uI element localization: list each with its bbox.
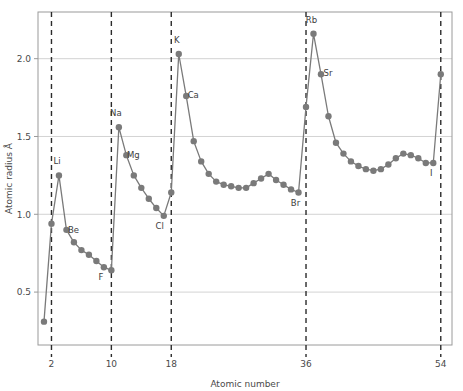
data-point [146,196,152,202]
data-point [71,239,77,245]
y-tick-label: 0.5 [17,287,31,297]
y-axis-ticks: 0.51.01.52.0 [17,54,38,297]
data-point [370,168,376,174]
data-point [78,247,84,253]
data-point [265,171,271,177]
data-point [235,185,241,191]
data-point [250,180,256,186]
data-point [138,185,144,191]
data-point [288,186,294,192]
data-point [295,189,301,195]
element-label: Ca [188,90,199,100]
chart-canvas: 210183654 0.51.01.52.0 LiBeFNaMgClKCaBrR… [0,0,463,391]
data-point [176,51,182,57]
y-tick-label: 1.0 [17,210,32,220]
data-point [93,258,99,264]
data-point [333,140,339,146]
data-point [325,113,331,119]
data-point [205,171,211,177]
element-label: Be [68,225,79,235]
data-point [220,182,226,188]
data-point [378,166,384,172]
data-point [116,124,122,130]
data-point [438,71,444,77]
data-point [348,158,354,164]
data-point [213,178,219,184]
data-point [108,267,114,273]
data-point [243,185,249,191]
x-tick-label: 36 [300,359,312,369]
data-point [191,138,197,144]
data-point [131,172,137,178]
element-label: Br [291,198,301,208]
atomic-radius-chart: 210183654 0.51.01.52.0 LiBeFNaMgClKCaBrR… [0,0,463,391]
data-point [228,183,234,189]
element-label: Na [110,108,122,118]
plot-background [38,12,452,345]
data-point [310,31,316,37]
data-point [86,252,92,258]
y-tick-label: 2.0 [17,54,32,64]
element-label: Cl [156,221,164,231]
x-tick-label: 54 [435,359,447,369]
x-tick-label: 18 [166,359,178,369]
data-point [161,213,167,219]
data-point [153,205,159,211]
data-point [400,150,406,156]
data-point [408,152,414,158]
data-point [415,155,421,161]
element-label: I [430,168,433,178]
data-point [385,161,391,167]
x-tick-label: 2 [49,359,55,369]
data-point [101,264,107,270]
data-point [198,158,204,164]
x-axis-ticks: 210183654 [49,359,447,369]
data-point [363,166,369,172]
data-point [430,160,436,166]
element-label: K [174,35,180,45]
y-tick-label: 1.5 [17,132,31,142]
data-point [258,175,264,181]
data-point [340,150,346,156]
element-label: F [98,272,103,282]
data-point [423,160,429,166]
data-point [393,155,399,161]
data-point [48,220,54,226]
element-label: Li [53,156,60,166]
x-axis-label: Atomic number [210,379,280,389]
data-point [273,177,279,183]
y-axis-label: Atomic radius Å [3,142,14,214]
data-point [303,104,309,110]
data-point [355,163,361,169]
x-tick-label: 10 [106,359,118,369]
data-point [280,182,286,188]
element-label: Sr [324,68,333,78]
data-point [168,189,174,195]
data-point [56,172,62,178]
element-label: Mg [127,150,140,160]
data-point [41,318,47,324]
element-label: Rb [306,15,317,25]
